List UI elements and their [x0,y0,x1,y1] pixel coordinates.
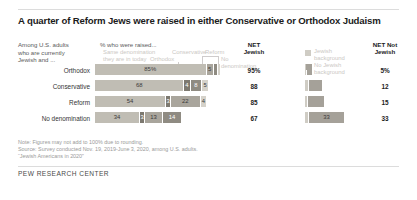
stacked-bar-denominations-1: 85%5 [95,64,221,75]
bar-segment-no_jewish_background [308,96,324,107]
bar-segment-orthodox: 3 [140,112,144,123]
row-group-header: Among U.S. adults who are currently Jewi… [18,41,92,64]
bar-segment-no_jewish_background [307,64,312,75]
legend-orthodox: Orthodox [150,56,174,63]
bar-segment-same: 68 [95,80,183,91]
row-label-conservative: Conservative [18,83,90,90]
bar-segment-no_denomination [218,64,221,75]
net-not-jewish-value: 33 [362,115,408,122]
column-header-net-jewish: NET Jewish [232,41,276,56]
bar-segment-conservative: 13 [145,112,162,123]
column-header-net-not-jewish: NET Not Jewish [362,41,408,56]
stacked-bar-background-3 [305,96,325,107]
row-label-orthodox: Orthodox [18,67,90,74]
net-not-jewish-value: 15 [362,99,408,106]
page-title: A quarter of Reform Jews were raised in … [18,15,404,26]
row-label-reform: Reform [18,99,90,106]
bar-segment-no_jewish_background [309,80,322,91]
legend-conservative: Conservative [172,49,206,56]
bar-segment-conservative: 5 [207,64,214,75]
top-rule [18,9,399,10]
stacked-bar-background-2 [305,80,323,91]
bar-segment-jewish_background [305,64,306,75]
net-jewish-value: 95% [232,67,276,74]
bar-segment-orthodox: 3 [166,96,170,107]
note-rounding: Note: Figures may not add to 100% due to… [18,139,143,146]
bar-segment-no_denomination: 4 [201,96,206,107]
net-jewish-value: 67 [232,115,276,122]
stacked-bar-denominations-2: 68485 [95,80,209,91]
footer-rule [18,166,399,167]
net-jewish-value: 85 [232,99,276,106]
chart-axis-header: % who were raised... [100,41,157,48]
bar-segment-no_jewish_background: 33 [309,112,344,123]
bar-segment-conservative: 22 [171,96,200,107]
legend-swatch-jewish-background [305,50,311,56]
pew-chart-figure: A quarter of Reform Jews were raised in … [0,0,417,200]
bar-segment-reform [214,64,217,75]
stacked-bar-background-1 [305,64,313,75]
net-not-jewish-value: 12 [362,83,408,90]
bar-segment-same: 34 [95,112,139,123]
bar-segment-jewish_background [305,96,307,107]
bar-segment-reform: 14 [163,112,181,123]
legend-leader-bracket [202,56,218,57]
bar-segment-reform: 8 [191,80,201,91]
stacked-bar-background-4: 33 [305,112,345,123]
note-report: “Jewish Americans in 2020” [18,153,84,160]
stacked-bar-denominations-3: 543224 [95,96,207,107]
bar-segment-jewish_background [305,80,308,91]
net-jewish-value: 88 [232,83,276,90]
bar-segment-same: 54 [95,96,165,107]
bar-segment-no_denomination: 5 [202,80,209,91]
bar-segment-jewish_background [305,112,308,123]
row-label-no-denomination: No denomination [18,115,90,122]
note-source: Source: Survey conducted Nov. 19, 2019-J… [18,146,198,153]
stacked-bar-denominations-4: 3431314 [95,112,182,123]
footer-brand: PEW RESEARCH CENTER [18,170,109,177]
net-not-jewish-value: 5% [362,67,408,74]
bar-segment-orthodox: 4 [184,80,189,91]
legend-reform: Reform [205,49,224,56]
bar-segment-same: 85% [95,64,206,75]
